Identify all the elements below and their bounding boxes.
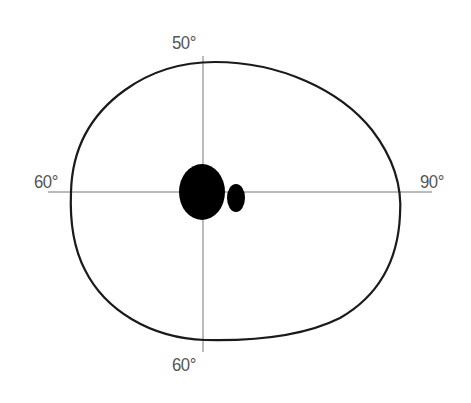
small-scotoma (227, 184, 245, 212)
label-top-50: 50° (172, 33, 196, 52)
blind-spot-scotoma (179, 164, 225, 220)
label-bottom-60: 60° (172, 355, 196, 374)
diagram-svg (0, 0, 471, 403)
visual-field-diagram: 50° 60° 90° 60° (0, 0, 471, 403)
label-right-90: 90° (420, 172, 444, 191)
label-left-60: 60° (34, 172, 58, 191)
